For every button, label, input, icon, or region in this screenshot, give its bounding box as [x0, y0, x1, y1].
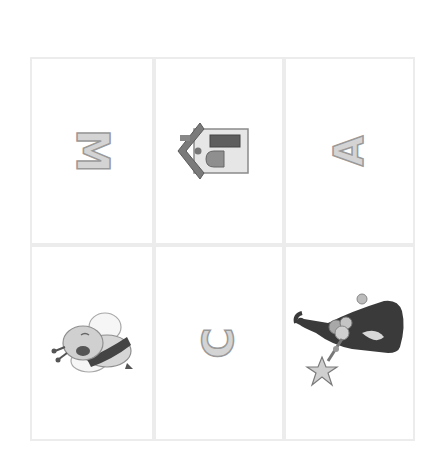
bee-icon	[47, 309, 137, 377]
card-house[interactable]	[154, 57, 284, 245]
letter-c: C	[198, 328, 240, 359]
card-bee[interactable]	[30, 245, 154, 441]
card-letter-c[interactable]: C	[154, 245, 284, 441]
card-letter-m[interactable]: M	[30, 57, 154, 245]
card-letter-a[interactable]: A	[284, 57, 415, 245]
card-witch-hat[interactable]	[284, 245, 415, 441]
house-icon	[177, 118, 261, 184]
card-grid: M A	[30, 57, 415, 441]
letter-a: A	[330, 136, 370, 167]
letter-m: M	[70, 129, 114, 173]
witch-hat-icon	[292, 293, 408, 393]
